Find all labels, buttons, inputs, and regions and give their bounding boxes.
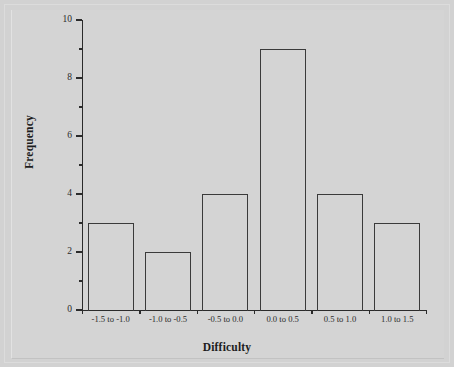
y-axis-tick-label: 6: [48, 130, 72, 140]
x-axis-tick-label: -1.0 to -0.5: [139, 314, 196, 324]
x-axis-tick-label: 0.5 to 1.0: [311, 314, 368, 324]
histogram-bar: [88, 223, 134, 311]
histogram-bar: [202, 194, 248, 311]
y-axis-minor-tick: [79, 48, 83, 49]
y-axis-tick-label: 4: [48, 188, 72, 198]
y-axis-minor-tick: [79, 106, 83, 107]
y-axis-major-tick: [76, 77, 82, 78]
y-axis-major-tick: [76, 251, 82, 252]
x-axis-tick-label: 0.0 to 0.5: [254, 314, 311, 324]
x-axis-tick-label: -1.5 to -1.0: [82, 314, 139, 324]
y-axis-major-tick: [76, 135, 82, 136]
y-axis-minor-tick: [79, 164, 83, 165]
histogram-bar: [145, 252, 191, 311]
histogram-bar: [260, 49, 306, 311]
plot-area: 0246810 -1.5 to -1.0-1.0 to -0.5-0.5 to …: [0, 0, 454, 367]
x-axis-tick-label: 1.0 to 1.5: [369, 314, 426, 324]
y-axis-line: [82, 20, 83, 311]
y-axis-tick-label: 10: [48, 14, 72, 24]
histogram-bar: [374, 223, 420, 311]
y-axis-title: Frequency: [23, 67, 35, 217]
y-axis-tick-label: 0: [48, 304, 72, 314]
x-axis-tick-label: -0.5 to 0.0: [197, 314, 254, 324]
histogram-figure: 0246810 -1.5 to -1.0-1.0 to -0.5-0.5 to …: [0, 0, 454, 367]
y-axis-tick-label: 2: [48, 246, 72, 256]
x-axis-tick: [426, 310, 427, 314]
y-axis-tick-label: 8: [48, 72, 72, 82]
y-axis-minor-tick: [79, 280, 83, 281]
histogram-bar: [317, 194, 363, 311]
y-axis-major-tick: [76, 19, 82, 20]
x-axis-title: Difficulty: [0, 341, 454, 353]
y-axis-major-tick: [76, 193, 82, 194]
y-axis-minor-tick: [79, 222, 83, 223]
